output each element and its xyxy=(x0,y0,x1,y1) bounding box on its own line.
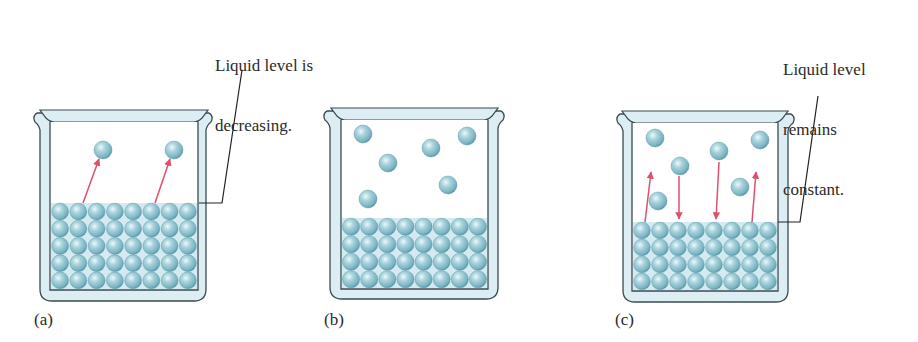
liquid-molecule xyxy=(88,272,105,289)
liquid-molecule xyxy=(652,256,669,273)
liquid-molecule xyxy=(742,273,759,290)
liquid-molecule xyxy=(361,236,378,253)
liquid-molecule xyxy=(634,273,651,290)
liquid-molecule xyxy=(161,238,178,255)
liquid-molecule xyxy=(52,238,69,255)
liquid-molecule xyxy=(688,273,705,290)
caption-c: Liquid level remains constant. xyxy=(783,20,866,240)
liquid-molecule xyxy=(469,218,486,235)
liquid-molecule xyxy=(106,238,123,255)
liquid-molecule xyxy=(106,203,123,220)
liquid-molecule xyxy=(343,236,360,253)
liquid-molecule xyxy=(143,255,160,272)
figure-canvas xyxy=(0,0,918,342)
vapor-molecule xyxy=(649,192,667,210)
caption-a-line-2: decreasing. xyxy=(215,116,313,136)
liquid-molecule xyxy=(469,236,486,253)
liquid-molecule xyxy=(179,203,196,220)
liquid-molecule xyxy=(88,255,105,272)
liquid-molecule xyxy=(760,273,777,290)
liquid-molecule xyxy=(706,222,723,239)
evaporation-equilibrium-figure: Liquid level is decreasing. Liquid level… xyxy=(0,0,918,342)
liquid-molecule xyxy=(179,272,196,289)
liquid-molecule xyxy=(125,220,142,237)
liquid-molecule xyxy=(652,273,669,290)
liquid-molecule xyxy=(343,271,360,288)
liquid-molecule xyxy=(361,218,378,235)
liquid-molecule xyxy=(469,253,486,270)
liquid-molecule xyxy=(52,203,69,220)
vapor-molecule xyxy=(439,176,457,194)
liquid-molecule xyxy=(451,218,468,235)
liquid-molecule xyxy=(397,236,414,253)
liquid-molecule xyxy=(397,218,414,235)
liquid-molecule xyxy=(433,253,450,270)
liquid-molecule xyxy=(125,238,142,255)
liquid-molecule xyxy=(88,203,105,220)
vapor-molecule xyxy=(379,154,397,172)
liquid-molecule xyxy=(106,255,123,272)
liquid-molecule xyxy=(451,253,468,270)
liquid-molecule xyxy=(52,220,69,237)
liquid-molecule xyxy=(379,253,396,270)
liquid-molecule xyxy=(379,236,396,253)
vapor-molecule xyxy=(751,131,769,149)
liquid-molecule xyxy=(760,222,777,239)
liquid-molecule xyxy=(634,222,651,239)
liquid-molecule xyxy=(760,239,777,256)
liquid-molecule xyxy=(433,236,450,253)
liquid-molecule xyxy=(379,218,396,235)
beaker-b xyxy=(324,108,504,299)
liquid-molecule xyxy=(70,220,87,237)
liquid-molecule xyxy=(760,256,777,273)
liquid-molecule xyxy=(742,222,759,239)
liquid-molecule xyxy=(652,222,669,239)
liquid-molecule xyxy=(706,256,723,273)
liquid-molecule xyxy=(379,271,396,288)
vapor-molecule xyxy=(731,178,749,196)
liquid-molecule xyxy=(106,272,123,289)
liquid-molecule xyxy=(143,203,160,220)
caption-c-line-1: Liquid level xyxy=(783,60,866,80)
beaker-rim xyxy=(622,111,788,123)
beaker-rim xyxy=(40,110,208,122)
liquid-molecule xyxy=(415,271,432,288)
liquid-molecule xyxy=(688,256,705,273)
liquid-molecule xyxy=(161,255,178,272)
liquid-molecule xyxy=(670,239,687,256)
liquid-molecule xyxy=(433,218,450,235)
vapor-molecule xyxy=(671,157,689,175)
vapor-molecule xyxy=(165,141,183,159)
liquid-molecule xyxy=(52,272,69,289)
vapor-molecule xyxy=(94,141,112,159)
liquid-molecule xyxy=(724,256,741,273)
vapor-molecule xyxy=(354,125,372,143)
liquid-molecule xyxy=(143,238,160,255)
liquid-molecule xyxy=(415,253,432,270)
liquid-molecule xyxy=(161,272,178,289)
liquid-molecule xyxy=(706,273,723,290)
vapor-molecule xyxy=(359,190,377,208)
liquid-molecule xyxy=(70,238,87,255)
caption-a: Liquid level is decreasing. xyxy=(215,16,313,176)
caption-c-line-3: constant. xyxy=(783,180,866,200)
liquid-molecule xyxy=(634,256,651,273)
liquid-molecule xyxy=(70,272,87,289)
caption-c-line-2: remains xyxy=(783,120,866,140)
panel-label-a: (a) xyxy=(34,310,53,330)
liquid-molecule xyxy=(179,238,196,255)
liquid-molecule xyxy=(469,271,486,288)
liquid-molecule xyxy=(361,271,378,288)
panel-label-c: (c) xyxy=(615,310,634,330)
vapor-molecule xyxy=(422,139,440,157)
liquid-molecule xyxy=(451,236,468,253)
liquid-molecule xyxy=(125,272,142,289)
liquid-molecule xyxy=(70,203,87,220)
liquid-molecule xyxy=(634,239,651,256)
liquid-molecule xyxy=(179,220,196,237)
liquid-molecule xyxy=(106,220,123,237)
caption-a-line-1: Liquid level is xyxy=(215,56,313,76)
liquid-molecule xyxy=(88,238,105,255)
liquid-molecule xyxy=(343,253,360,270)
liquid-molecule xyxy=(724,239,741,256)
